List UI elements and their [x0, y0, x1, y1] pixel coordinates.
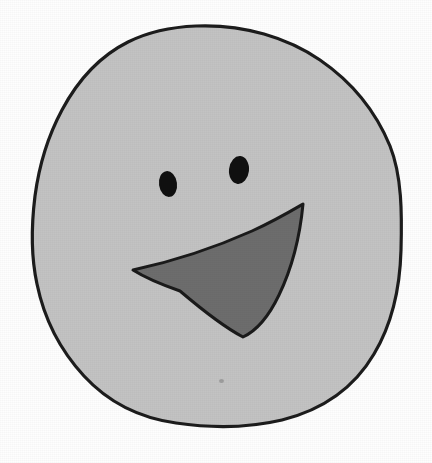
drawing-canvas	[0, 0, 432, 463]
smiley-face-drawing	[0, 0, 432, 463]
paper-speck	[219, 379, 224, 383]
face-outline	[32, 26, 401, 427]
